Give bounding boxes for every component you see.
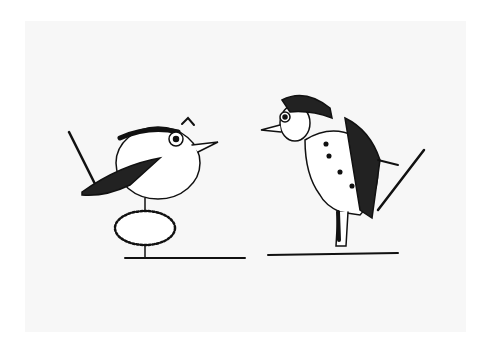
bird-gentleman <box>261 96 424 247</box>
cane <box>378 150 424 210</box>
illustration <box>0 0 492 352</box>
ground-line <box>125 253 398 258</box>
nest <box>115 211 175 245</box>
